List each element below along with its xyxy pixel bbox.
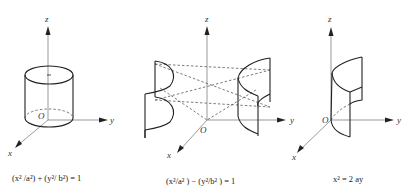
asymptote-line xyxy=(155,70,270,100)
x-axis-arrow-icon xyxy=(177,145,184,153)
parabola-top-back xyxy=(332,57,362,73)
bottom-ellipse-front xyxy=(25,118,73,127)
y-axis-label: y xyxy=(109,115,114,125)
asymptote-line xyxy=(155,64,270,70)
z-axis-label: z xyxy=(327,14,332,24)
origin-label: O xyxy=(38,111,45,121)
figure-hyperbolic-cylinder: z y x O (x²/a² ) − (y²/b² ) = 1 xyxy=(145,14,294,186)
x-axis-label: x xyxy=(166,150,171,160)
z-axis-arrow-icon xyxy=(329,27,334,36)
figure-parabolic-cylinder: z y x O x² = 2 ay xyxy=(291,14,401,184)
caption-parabolic: x² = 2 ay xyxy=(333,174,364,184)
y-axis-label: y xyxy=(289,115,294,125)
y-axis-arrow-icon xyxy=(99,118,108,123)
z-axis-label: z xyxy=(44,14,49,24)
bottom-ellipse-back xyxy=(25,109,73,118)
x-axis-arrow-icon xyxy=(15,140,22,148)
parabola-top-front xyxy=(332,73,350,92)
z-axis-arrow-icon xyxy=(205,26,210,35)
parabola-bottom-back xyxy=(331,104,350,120)
y-axis-label: y xyxy=(396,115,401,125)
caption-hyperbolic: (x²/a² ) − (y²/b² ) = 1 xyxy=(166,176,235,186)
x-axis-label: x xyxy=(7,148,12,158)
x-axis-label: x xyxy=(291,152,296,162)
figure-elliptic-cylinder: z y x O (x² /a²) + (y²/ b²) = 1 xyxy=(7,14,114,183)
x-axis xyxy=(18,120,48,145)
diagram-canvas: z y x O (x² /a²) + (y²/ b²) = 1 z y xyxy=(0,0,419,193)
z-axis-label: z xyxy=(204,14,209,24)
origin-label: O xyxy=(322,115,329,125)
y-axis-arrow-icon xyxy=(277,118,286,123)
origin-label: O xyxy=(200,125,207,135)
asymptote-line xyxy=(207,90,256,120)
caption-elliptic: (x² /a²) + (y²/ b²) = 1 xyxy=(12,173,81,183)
left-sheet-bottom-curve xyxy=(145,97,174,130)
parabola-bottom-front xyxy=(331,120,350,137)
x-axis-arrow-icon xyxy=(297,145,304,153)
z-axis-arrow-icon xyxy=(46,26,51,35)
y-axis-arrow-icon xyxy=(385,118,394,123)
